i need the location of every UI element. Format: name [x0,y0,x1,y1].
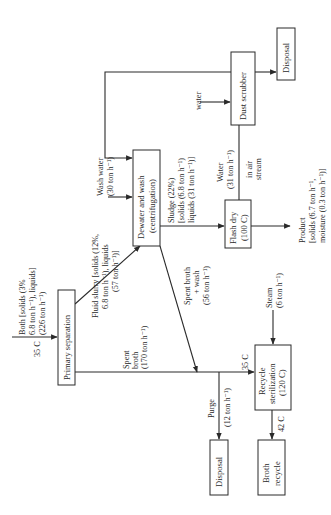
recycle-in-temp-label: 35 C [241,354,250,370]
wash-water-label-2: (30 ton h⁻¹) [106,157,115,196]
spent-broth-wash-arrow [160,246,197,372]
sludge-label-2: [solids (6.8 ton h⁻¹) [177,158,186,223]
fluid-slurry-label-1: Fluid slurry [solids (12%, [91,234,100,318]
flash-dry-label-2: (100 C) [239,214,249,241]
primary-separation-label: Primary separation [62,314,72,380]
scrubber-recycle-line [105,72,231,158]
steam-label-2: (6 ton h⁻¹) [275,273,284,308]
purge-label-2: (12 ton h⁻¹) [223,388,232,427]
feed-label-2: 6.8 ton h⁻¹), liquids] [28,267,37,335]
recycle-sterilization-label-1: Recycle [257,367,267,395]
product-label-1: Product [298,217,307,243]
steam-label-1: Steam [265,287,274,308]
spent-broth-label-1: Spent [122,350,131,369]
broth-recycle-node: Broth recycle [258,440,285,495]
fluid-slurry-label-3: (57 ton h⁻¹)] [111,250,120,292]
sludge-label-1: Sludge (22%) [167,177,176,223]
air-water-label-1: Water [216,162,225,182]
disposal-top-label: Disposal [281,42,291,73]
dewater-wash-label-2: (centrifugation) [147,179,157,233]
feed-label-3: (226 ton h⁻¹) [38,292,47,335]
process-flow-diagram: Primary separation Dewater and wash (cen… [0,0,331,515]
spent-broth-label-2: broth [131,352,140,369]
disposal-bottom-node: Disposal [210,440,228,495]
spent-broth-wash-label-2: + wash [192,271,201,295]
flash-dry-label-1: Flash dry [228,211,238,244]
recycle-sterilization-label-3: (120 C) [277,369,287,396]
fluid-slurry-label-2: 6.8 ton h⁻¹), liquids [101,244,110,309]
air-water-label-3: in air [245,161,254,178]
broth-recycle-label-1: Broth [261,463,271,483]
sludge-label-3: liquids (31 ton h⁻¹)] [187,157,196,223]
dewater-wash-node: Dewater and wash (centrifugation) [133,150,160,246]
disposal-bottom-label: Disposal [214,456,224,487]
spent-broth-wash-label-3: (56 ton h⁻¹) [202,266,211,305]
dust-scrubber-label: Dust scrubber [238,72,248,120]
recycle-out-temp-label: 42 C [277,416,286,432]
wash-water-label-1: Wash water [96,158,105,196]
broth-recycle-label-2: recycle [272,461,282,486]
recycle-sterilization-label-2: sterilization [267,363,277,404]
spent-broth-label-3: (170 ton h⁻¹) [140,326,149,369]
feed-temp-label: 35 C [33,341,42,357]
air-water-label-2: (31 ton h⁻¹) [226,150,235,189]
dewater-wash-label-1: Dewater and wash [136,175,146,239]
spent-broth-wash-label-1: Spent broth [183,267,192,305]
feed-label-1: Both [solids (3% [18,279,27,335]
purge-label-1: Purge [207,399,216,418]
scrubber-water-label: water [194,92,203,110]
air-water-label-4: stream [254,158,263,180]
product-label-2: [solids (6.7 ton h⁻¹, [308,179,317,243]
product-label-3: moisture (0.3 ton h⁻¹)] [318,168,327,243]
recycle-sterilization-node: Recycle sterilization (120 C) [255,345,291,410]
dust-scrubber-node: Dust scrubber [231,52,255,125]
primary-separation-node: Primary separation [58,290,75,385]
flash-dry-node: Flash dry (100 C) [225,200,251,248]
disposal-top-node: Disposal [277,28,295,80]
